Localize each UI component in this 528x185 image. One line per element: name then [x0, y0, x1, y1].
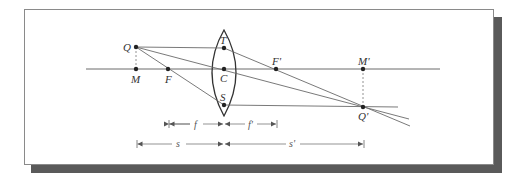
label-M: M: [130, 73, 141, 85]
point-M-prime: [361, 67, 365, 71]
dimension-s: s: [137, 138, 223, 149]
dimension-f: f: [169, 119, 223, 130]
dimension-f-prime: f': [225, 119, 277, 130]
label-Q-prime: Q': [358, 110, 369, 122]
label-M-prime: M': [357, 55, 370, 67]
label-F-prime: F': [271, 55, 282, 67]
point-T: [222, 46, 226, 50]
dimension-f-label: f: [194, 119, 198, 130]
dimension-s-prime-label: s': [289, 138, 296, 149]
dimension-s-label: s: [176, 138, 180, 149]
label-C: C: [220, 72, 228, 84]
point-S: [222, 103, 226, 107]
label-S: S: [220, 91, 226, 103]
point-Q-prime: [361, 105, 365, 109]
dimension-s-prime: s': [225, 138, 364, 149]
label-T: T: [220, 34, 227, 46]
label-Q: Q: [123, 41, 131, 53]
point-C: [222, 67, 226, 71]
dimension-f-prime-label: f': [248, 119, 254, 130]
point-F: [166, 67, 170, 71]
lens-diagram: Q M F T C S F' M' Q' f f' s s': [0, 0, 528, 185]
point-Q: [134, 45, 138, 49]
point-M: [134, 67, 138, 71]
label-F: F: [164, 73, 172, 85]
point-F-prime: [274, 67, 278, 71]
